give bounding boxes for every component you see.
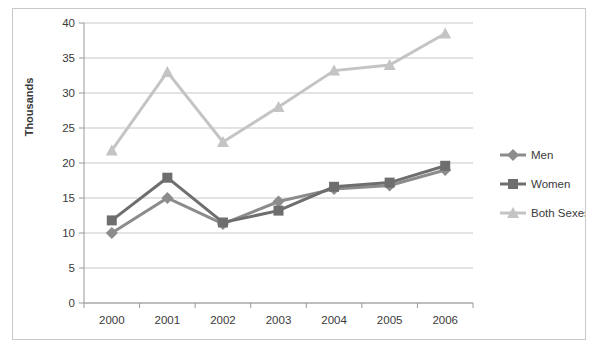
x-tick-label: 2003 [266,314,292,326]
series-men [106,164,451,239]
data-point-marker [508,179,518,189]
data-point-marker [274,206,284,216]
series-women [107,161,450,228]
x-tick-label: 2004 [321,314,347,326]
legend: MenWomenBoth Sexes [500,149,585,219]
data-point-marker [439,28,451,39]
y-tick-label: 40 [62,17,75,29]
legend-label: Men [531,149,553,161]
data-point-marker [162,173,172,183]
y-tick-label: 0 [69,297,75,309]
legend-item-women[interactable]: Women [500,178,570,190]
chart-container: 0510152025303540200020012002200320042005… [12,8,586,340]
data-point-marker [440,161,450,171]
data-point-marker [218,218,228,228]
x-tick-label: 2002 [210,314,236,326]
x-tick-label: 2006 [432,314,458,326]
y-tick-label: 35 [62,52,75,64]
legend-label: Women [531,178,570,190]
series-both-sexes [106,28,451,156]
data-point-marker [385,178,395,188]
x-tick-label: 2001 [155,314,181,326]
gridlines [84,23,473,303]
data-point-marker [107,215,117,225]
data-point-marker [329,182,339,192]
y-tick-label: 15 [62,192,75,204]
legend-item-both-sexes[interactable]: Both Sexes [500,207,585,219]
data-point-marker [161,66,173,77]
y-tick-label: 20 [62,157,75,169]
legend-item-men[interactable]: Men [500,149,553,161]
legend-label: Both Sexes [531,207,585,219]
series-line [112,34,445,151]
x-tick-labels: 2000200120022003200420052006 [99,314,458,326]
y-tick-label: 10 [62,227,75,239]
y-tick-labels: 0510152025303540 [62,17,75,309]
y-axis-title: Thousands [23,78,35,137]
x-tick-label: 2000 [99,314,125,326]
data-point-marker [507,149,519,161]
axes [79,23,473,308]
x-tick-label: 2005 [377,314,403,326]
y-tick-label: 25 [62,122,75,134]
y-tick-label: 30 [62,87,75,99]
y-tick-label: 5 [69,262,75,274]
line-chart: 0510152025303540200020012002200320042005… [13,9,585,339]
